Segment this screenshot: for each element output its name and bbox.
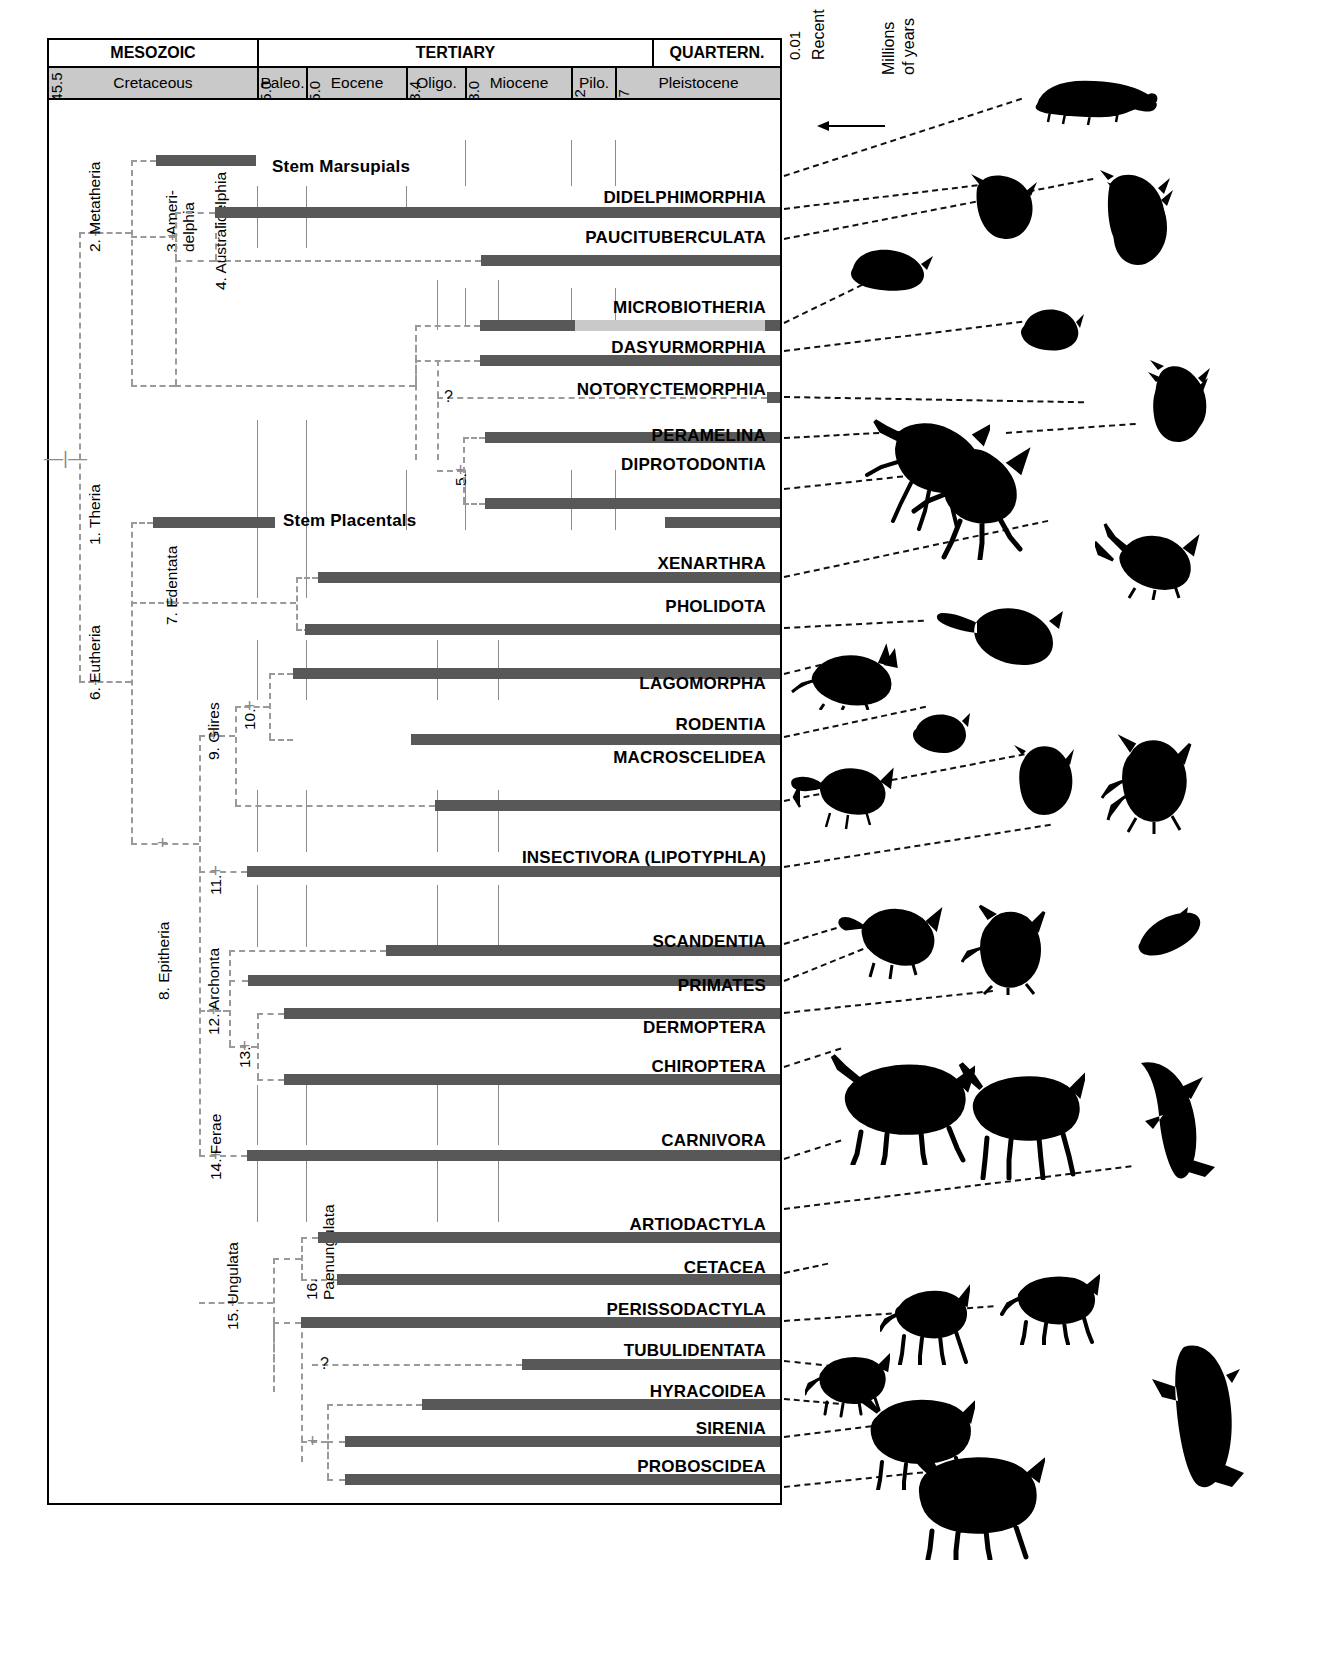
taxon-label-diprotodontia: DIPROTODONTIA: [60, 455, 766, 475]
branch-rodentia: [269, 739, 293, 741]
silhouette-dermoptera: [1130, 905, 1205, 965]
taxon-label-tubulidentata: TUBULIDENTATA: [60, 1341, 766, 1361]
branch-chiroptera: [257, 1079, 284, 1081]
branch-dermoptera: [257, 1013, 284, 1015]
node-label-1-theria: 1. Theria: [86, 484, 104, 545]
range-bar-paucituberculata: [481, 255, 780, 266]
guide-line: [615, 140, 616, 186]
era-cell-quaternary: QUARTERN.: [654, 40, 780, 66]
taxon-label-cetacea: CETACEA: [60, 1258, 766, 1278]
silhouette-paucituberculata: [835, 238, 935, 298]
range-bar-rodentia: [411, 734, 780, 745]
taxon-label-dermoptera: DERMOPTERA: [60, 1018, 766, 1038]
leader-line-pholidota: [784, 620, 924, 629]
range-bar-notoryctemorphia: [767, 392, 780, 403]
silhouette-microbiotheria: [1010, 300, 1085, 360]
leader-line-insectivora: [784, 824, 1051, 868]
node-label-5: 5.: [452, 473, 470, 486]
leader-line-dasyurmorphia: [784, 321, 1022, 352]
taxon-label-macroscelidea: MACROSCELIDEA: [60, 748, 766, 768]
silhouette-artiodactyla: [955, 1060, 1085, 1180]
silhouette-scandentia: [838, 895, 943, 980]
silhouette-macroscelidea: [790, 755, 900, 830]
branch-hyracoidea: [327, 1404, 422, 1406]
range-bar-microbiotheria-light: [575, 320, 765, 331]
range-bar-diprotodontia: [485, 498, 780, 509]
branch-sirenia: [327, 1441, 345, 1443]
age-tick-0-01: 0.01: [786, 31, 803, 60]
silhouette-cetacea: [1115, 1055, 1245, 1185]
range-bar-didelphimorphia: [215, 207, 780, 218]
guide-line: [437, 1160, 438, 1222]
silhouette-perissodactyla-2: [1000, 1270, 1100, 1345]
guide-line: [257, 1160, 258, 1222]
leader-line-paucituberculata: [784, 178, 1094, 240]
axis-title-line2: of years: [900, 18, 918, 75]
recent-label: Recent: [810, 9, 828, 60]
range-bar-microbiotheria-dark: [480, 320, 575, 331]
silhouette-sirenia: [1140, 1335, 1245, 1495]
guide-line: [306, 1160, 307, 1222]
silhouette-insectivora-2: [1100, 730, 1195, 835]
taxon-label-stem-placentals: Stem Placentals: [283, 511, 416, 531]
era-row: MESOZOIC TERTIARY QUARTERN.: [49, 40, 780, 68]
axis-title-line1: Millions: [880, 22, 898, 75]
leader-line-peramelina-2: [1006, 423, 1136, 434]
taxon-label-carnivora: CARNIVORA: [60, 1131, 766, 1151]
taxon-label-stem-marsupials: Stem Marsupials: [272, 157, 410, 177]
branch-macroscelidea: [235, 805, 435, 807]
guide-line: [571, 140, 572, 186]
era-cell-tertiary: TERTIARY: [259, 40, 652, 66]
silhouette-didelphimorphia: [965, 170, 1045, 245]
silhouette-proboscidea: [900, 1445, 1045, 1560]
silhouette-rodentia: [900, 705, 975, 765]
silhouette-lagomorpha: [790, 640, 900, 710]
range-bar-microbiotheria-tip: [765, 320, 780, 331]
taxon-label-notoryctemorphia: NOTORYCTEMORPHIA: [60, 380, 766, 400]
period-cell-pleistocene: Pleistocene: [617, 68, 780, 98]
range-bar-stem-placentals-late: [665, 517, 780, 528]
branch-node11-h: [199, 871, 247, 873]
taxon-label-perissodactyla: PERISSODACTYLA: [60, 1300, 766, 1320]
branch-dasyurmorphia: [415, 360, 480, 362]
branch-microbiotheria: [415, 325, 480, 327]
branch-stem-placentals: [131, 522, 153, 524]
guide-line: [498, 1160, 499, 1222]
taxon-label-insectivora: INSECTIVORA (LIPOTYPHLA): [60, 848, 766, 868]
taxon-label-primates: PRIMATES: [60, 976, 766, 996]
node-label-11: 11.: [207, 875, 225, 895]
range-bar-carnivora: [247, 1150, 780, 1161]
branch-tubulidentata: [312, 1364, 522, 1366]
leader-line-stem-marsupial: [784, 98, 1022, 177]
branch-perissodactyla: [273, 1322, 301, 1324]
branch-stem-marsupials: [131, 160, 156, 162]
branch-didelphimorphia: [175, 212, 215, 214]
taxon-label-didelphimorphia: DIDELPHIMORPHIA: [60, 188, 766, 208]
taxon-label-scandentia: SCANDENTIA: [60, 932, 766, 952]
silhouette-peramelina-2: [1140, 370, 1210, 450]
taxon-label-chiroptera: CHIROPTERA: [60, 1057, 766, 1077]
era-divider-2: [652, 40, 654, 66]
branch-proboscidea: [327, 1479, 345, 1481]
taxon-label-hyracoidea: HYRACOIDEA: [60, 1382, 766, 1402]
silhouette-perissodactyla: [880, 1280, 970, 1365]
range-bar-stem-marsupials: [156, 155, 256, 166]
era-divider-1: [257, 40, 259, 66]
taxon-label-xenarthra: XENARTHRA: [60, 554, 766, 574]
guide-line: [257, 790, 258, 852]
phylogeny-figure: MESOZOIC TERTIARY QUARTERN. Cretaceous P…: [0, 0, 1323, 1663]
taxon-label-rodentia: RODENTIA: [60, 715, 766, 735]
silhouette-insectivora: [1000, 735, 1080, 830]
era-cell-mesozoic: MESOZOIC: [49, 40, 257, 66]
range-bar-pholidota: [305, 624, 780, 635]
taxon-label-artiodactyla: ARTIODACTYLA: [60, 1215, 766, 1235]
taxon-label-lagomorpha: LAGOMORPHA: [60, 674, 766, 694]
period-cell-cretaceous: Cretaceous: [49, 68, 257, 98]
range-bar-stem-placentals: [153, 517, 275, 528]
branch-paucituberculata-stub: [175, 260, 215, 262]
silhouette-primates: [960, 900, 1050, 995]
silhouette-carnivora: [825, 1050, 975, 1165]
taxon-label-paucituberculata: PAUCITUBERCULATA: [60, 228, 766, 248]
taxon-label-sirenia: SIRENIA: [60, 1419, 766, 1439]
leader-line-cetacea: [784, 1263, 828, 1274]
